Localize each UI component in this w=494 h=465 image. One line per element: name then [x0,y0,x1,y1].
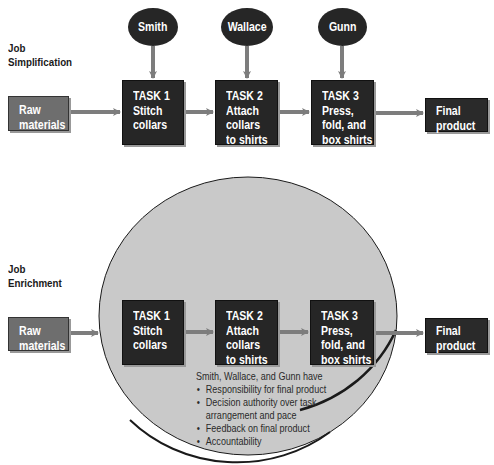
task-3-box: TASK 3 Press, fold, and box shirts [311,80,374,145]
box-text: Final [436,104,481,119]
task-line: Press, [321,324,367,339]
task-line: Stitch [133,324,177,339]
worker-gunn-oval: Gunn [318,8,367,46]
box-text: Raw [19,103,62,118]
bullet-responsibility: Responsibility for final product [196,383,326,396]
worker-name: Smith [138,20,167,34]
task-line: to shirts [226,133,271,148]
task-line: to shirts [226,353,271,368]
task-line: collars [226,118,271,133]
box-text: product [436,339,481,354]
label-line: Simplification [8,55,72,69]
task-line: Stitch [133,104,177,119]
task-line: collars [226,338,271,353]
worker-name: Gunn [329,20,357,34]
worker-smith-oval: Smith [128,8,178,46]
task-line: Attach [226,104,271,119]
enrichment-description: Smith, Wallace, and Gunn have Responsibi… [196,370,326,448]
task-title: TASK 3 [321,309,367,324]
box-text: materials [19,339,62,354]
task-title: TASK 1 [133,89,177,104]
worker-wallace-oval: Wallace [221,8,273,46]
raw-materials-box: Raw materials [8,96,69,131]
box-text: materials [19,118,62,133]
label-line: Job [8,262,62,276]
label-line: Job [8,41,72,55]
final-product-box-enrichment: Final product [425,318,488,353]
label-line: Enrichment [8,276,62,290]
task-line: box shirts [321,353,367,368]
task-1-box: TASK 1 Stitch collars [122,80,184,145]
task-line: fold, and [322,118,367,133]
box-text: product [436,119,481,134]
enrichment-intro: Smith, Wallace, and Gunn have [196,370,326,383]
task-line: Press, [322,104,367,119]
task-line: collars [133,118,177,133]
bullet-feedback: Feedback on final product [196,422,326,435]
task-1-box-enrichment: TASK 1 Stitch collars [122,300,184,365]
task-2-box: TASK 2 Attach collars to shirts [215,80,278,145]
job-simplification-label: Job Simplification [8,41,72,69]
task-line: Attach [226,324,271,339]
bullet-accountability: Accountability [196,435,326,448]
raw-materials-box-enrichment: Raw materials [8,317,69,351]
bullet-decision-authority: Decision authority over task [196,396,326,409]
task-title: TASK 1 [133,309,177,324]
task-3-box-enrichment: TASK 3 Press, fold, and box shirts [310,300,374,365]
bullet-decision-authority-cont: arrangement and pace [196,409,326,422]
task-line: collars [133,338,177,353]
task-title: TASK 2 [226,309,271,324]
task-2-box-enrichment: TASK 2 Attach collars to shirts [215,300,278,365]
final-product-box: Final product [425,98,488,132]
task-line: fold, and [321,338,367,353]
box-text: Raw [19,324,62,339]
task-line: box shirts [322,133,367,148]
task-title: TASK 2 [226,89,271,104]
task-title: TASK 3 [322,89,367,104]
job-enrichment-label: Job Enrichment [8,262,62,290]
worker-name: Wallace [228,20,267,34]
box-text: Final [436,324,481,339]
